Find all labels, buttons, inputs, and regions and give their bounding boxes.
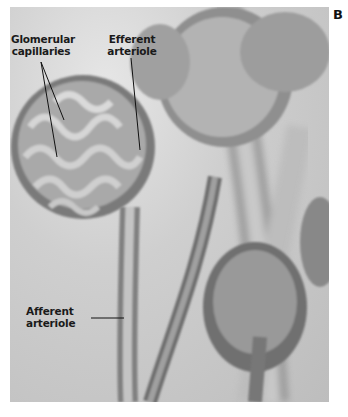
micrograph-photo [10, 7, 329, 402]
label-afferent-arteriole: Afferent arteriole [26, 305, 72, 329]
micrograph-illustration [10, 7, 329, 402]
label-line-1: Afferent [26, 305, 72, 317]
label-line-2: arteriole [26, 317, 72, 329]
label-line-1: Efferent [107, 33, 157, 45]
label-line-2: arteriole [107, 45, 157, 57]
panel-letter: B [333, 7, 343, 22]
figure: Glomerular capillaries Efferent arteriol… [0, 0, 348, 417]
label-line-2: capillaries [11, 45, 71, 57]
label-line-1: Glomerular [11, 33, 71, 45]
label-glomerular-capillaries: Glomerular capillaries [11, 33, 71, 57]
label-efferent-arteriole: Efferent arteriole [107, 33, 157, 57]
